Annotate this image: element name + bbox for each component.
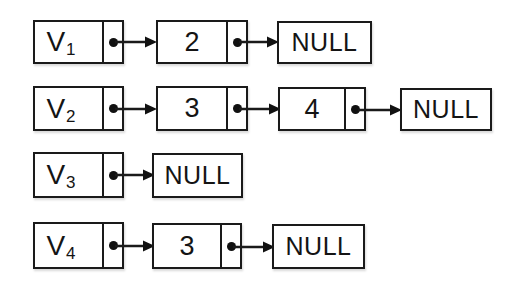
pointer-arrow [115,169,155,181]
list-node-box[interactable]: 3 [152,223,242,269]
vertex-label: V2 [46,95,90,123]
pointer-arrow [358,104,402,116]
adjacency-list-row: V3 NULL [0,152,515,198]
node-value-cell: 3 [154,225,220,267]
pointer-arrow [233,241,275,253]
null-label: NULL [413,97,479,122]
vertex-label-cell: V1 [35,22,102,62]
vertex-label-cell: V3 [35,154,102,196]
vertex-label: V3 [46,161,90,189]
vertex-label-cell: V4 [35,224,102,267]
null-label-cell: NULL [274,226,363,267]
adjacency-list-row: V4 3 [0,222,515,269]
vertex-head-box[interactable]: V1 [33,20,124,64]
pointer-arrow [115,240,155,252]
node-value: 2 [184,29,199,56]
list-node-box[interactable]: 2 [156,20,248,64]
vertex-label-cell: V2 [35,88,102,129]
null-label: NULL [292,30,358,55]
node-value: 3 [184,95,199,122]
pointer-arrow [239,36,279,48]
adjacency-list-row: V1 2 [0,20,515,64]
null-terminator-box: NULL [277,21,372,64]
adjacency-list-diagram: V1 2 [0,0,515,289]
node-value-cell: 2 [158,22,226,62]
vertex-head-box[interactable]: V3 [33,152,124,198]
pointer-arrow [115,36,157,48]
null-terminator-box: NULL [400,88,492,131]
pointer-arrow [239,103,281,115]
null-label-cell: NULL [279,23,370,62]
null-label: NULL [286,234,352,259]
null-label-cell: NULL [154,155,241,196]
null-terminator-box: NULL [152,153,243,198]
vertex-head-box[interactable]: V4 [33,222,124,269]
list-node-box[interactable]: 4 [278,87,366,131]
null-label: NULL [165,163,231,188]
node-value-cell: 4 [280,89,344,129]
node-value-cell: 3 [158,88,226,129]
node-value: 3 [179,233,194,260]
pointer-arrow [115,103,157,115]
null-label-cell: NULL [402,90,490,129]
node-value: 4 [304,96,319,123]
vertex-label: V4 [46,232,90,260]
adjacency-list-row: V2 3 [0,86,515,131]
list-node-box[interactable]: 3 [156,86,248,131]
null-terminator-box: NULL [272,224,365,269]
vertex-label: V1 [46,28,90,56]
vertex-head-box[interactable]: V2 [33,86,124,131]
